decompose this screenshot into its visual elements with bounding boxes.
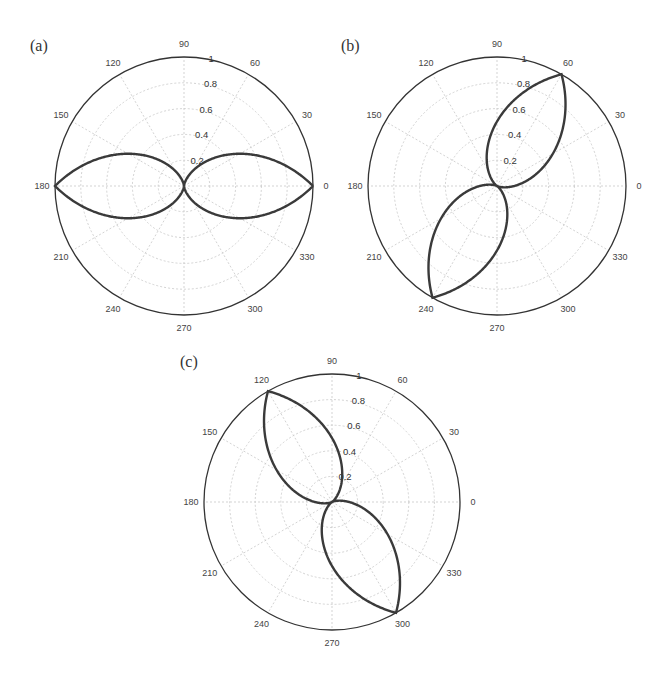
grid-spoke [497,74,562,186]
angle-tick-label: 150 [54,110,69,120]
radial-tick-label: 1 [521,53,526,64]
angle-tick-label: 60 [397,375,407,385]
grid-spoke [497,186,609,251]
angle-tick-label: 180 [347,181,362,191]
radial-tick-label: 0.2 [338,471,351,482]
angle-tick-label: 240 [105,304,120,314]
angle-tick-label: 90 [492,39,502,49]
radial-tick-label: 0.2 [503,155,516,166]
radial-tick-label: 0.4 [508,129,521,140]
radial-tick-label: 0.4 [195,129,208,140]
polar-panel-c: 03060901201501802102402703003300.20.40.6… [183,356,475,648]
panel-label-b: (b) [341,37,360,55]
angle-tick-label: 60 [563,58,573,68]
angle-tick-label: 270 [489,323,504,333]
radial-tick-label: 0.6 [199,104,212,115]
angle-tick-label: 90 [327,356,337,366]
panel-label-a: (a) [30,37,48,55]
angle-tick-label: 240 [418,304,433,314]
angle-tick-label: 0 [323,181,328,191]
radial-tick-label: 0.4 [343,446,356,457]
angle-tick-label: 0 [470,497,475,507]
angle-tick-label: 90 [179,39,189,49]
angle-tick-label: 240 [254,619,269,629]
polar-panel-a: 03060901201501802102402703003300.20.40.6… [34,39,328,333]
angle-tick-label: 330 [447,568,462,578]
pattern-curve [428,74,565,297]
angle-tick-label: 120 [254,375,269,385]
angle-tick-label: 120 [418,58,433,68]
angle-tick-label: 210 [202,568,217,578]
angle-tick-label: 180 [34,181,49,191]
angle-tick-label: 270 [324,638,339,648]
angle-tick-label: 150 [367,110,382,120]
angle-tick-label: 300 [395,619,410,629]
polar-figure: 03060901201501802102402703003300.20.40.6… [0,0,670,686]
pattern-curve [55,154,313,219]
angle-tick-label: 60 [250,58,260,68]
polar-panel-b: 03060901201501802102402703003300.20.40.6… [347,39,641,333]
grid-spoke [221,502,332,566]
angle-tick-label: 150 [202,427,217,437]
angle-tick-label: 180 [183,497,198,507]
angle-tick-label: 330 [299,252,314,262]
radial-tick-label: 0.6 [512,104,525,115]
angle-tick-label: 300 [247,304,262,314]
angle-tick-label: 300 [560,304,575,314]
radial-tick-label: 1 [208,53,213,64]
panel-label-c: (c) [180,353,198,371]
radial-tick-label: 0.6 [347,420,360,431]
angle-tick-label: 0 [636,181,641,191]
angle-tick-label: 30 [615,110,625,120]
radial-tick-label: 0.8 [204,78,217,89]
radial-tick-label: 1 [356,370,361,381]
angle-tick-label: 270 [176,323,191,333]
grid-spoke [332,502,396,613]
angle-tick-label: 30 [449,427,459,437]
angle-tick-label: 210 [54,252,69,262]
grid-spoke [385,122,497,187]
angle-tick-label: 30 [302,110,312,120]
angle-tick-label: 210 [367,252,382,262]
grid-spoke [268,391,332,502]
grid-spoke [433,186,498,298]
angle-tick-label: 330 [612,252,627,262]
radial-tick-label: 0.8 [352,395,365,406]
angle-tick-label: 120 [105,58,120,68]
